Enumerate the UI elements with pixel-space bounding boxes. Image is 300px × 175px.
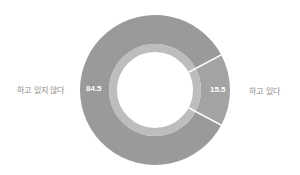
inner-ring: [113, 48, 197, 132]
value-doing: 15.5: [210, 85, 226, 94]
label-not-doing: 하고 있지 않다: [17, 84, 64, 95]
value-not-doing: 84.5: [86, 84, 102, 93]
label-doing: 하고 있다: [249, 85, 280, 96]
